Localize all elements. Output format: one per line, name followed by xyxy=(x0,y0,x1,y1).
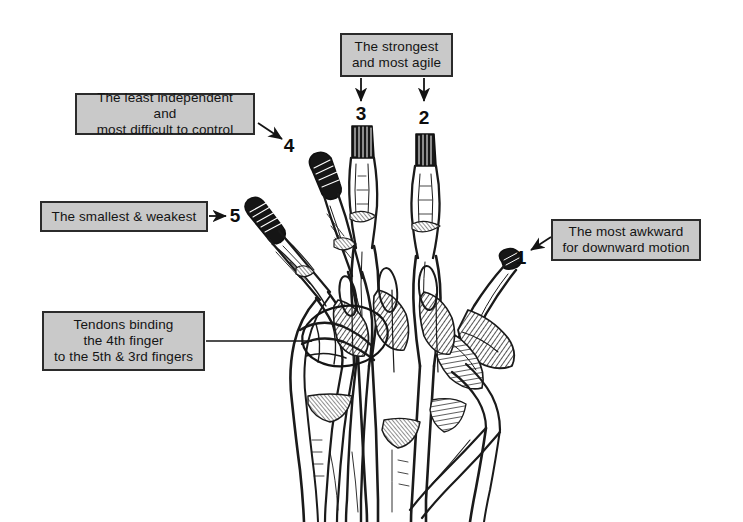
finger-number-1: 1 xyxy=(514,248,528,267)
callout-strongest-text: The strongest and most agile xyxy=(352,39,441,71)
finger-number-4: 4 xyxy=(282,136,296,155)
callout-least-independent[interactable]: The least independent and most difficult… xyxy=(75,93,255,135)
callout-tendons-binding[interactable]: Tendons binding the 4th finger to the 5t… xyxy=(42,311,205,371)
callout-smallest-weakest-text: The smallest & weakest xyxy=(52,209,197,225)
figure-canvas: The strongest and most agile The least i… xyxy=(0,0,743,522)
finger-number-2: 2 xyxy=(417,108,431,127)
callout-most-awkward-text: The most awkward for downward motion xyxy=(562,224,689,256)
callout-least-independent-text: The least independent and most difficult… xyxy=(84,90,246,138)
finger-number-5: 5 xyxy=(228,206,242,225)
callout-most-awkward[interactable]: The most awkward for downward motion xyxy=(551,219,701,261)
callout-strongest-and-most-agile[interactable]: The strongest and most agile xyxy=(340,33,453,77)
callout-tendons-binding-text: Tendons binding the 4th finger to the 5t… xyxy=(54,317,193,365)
finger-number-3: 3 xyxy=(354,104,368,123)
callout-smallest-and-weakest[interactable]: The smallest & weakest xyxy=(40,201,208,232)
hand-anatomy-illustration xyxy=(0,0,743,522)
